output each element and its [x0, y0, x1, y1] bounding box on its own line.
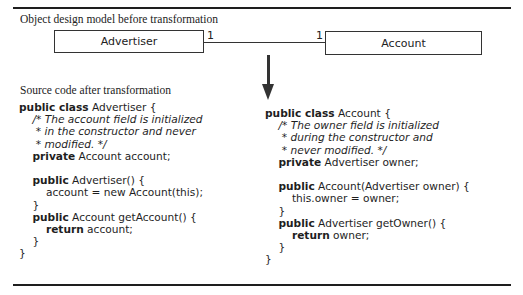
caption-object-design-model: Object design model before transformatio… [20, 13, 218, 26]
code-line: return account; [19, 223, 203, 235]
code-line: /* The account field is initialized [19, 113, 203, 125]
code-line [265, 168, 470, 180]
code-line: /* The owner field is initialized [265, 119, 470, 131]
multiplicity-account: 1 [316, 30, 323, 41]
code-line: private Account account; [19, 150, 203, 162]
caption-source-code: Source code after transformation [20, 84, 171, 97]
code-line: public Advertiser getOwner() { [265, 217, 470, 229]
code-line: this.owner = owner; [265, 192, 470, 204]
code-line: * during the constructor and [265, 131, 470, 143]
code-line [19, 162, 203, 174]
association-line [203, 42, 326, 43]
code-line: public Advertiser() { [19, 174, 203, 186]
code-line: } [265, 205, 470, 217]
code-line: } [19, 199, 203, 211]
multiplicity-advertiser: 1 [207, 30, 214, 41]
code-line: } [19, 235, 203, 247]
uml-class-account-name: Account [381, 37, 425, 50]
down-arrow-icon [262, 84, 274, 100]
code-account-class: public class Account { /* The owner fiel… [265, 107, 470, 265]
code-advertiser-class: public class Advertiser { /* The account… [19, 101, 203, 259]
code-line: public class Account { [265, 107, 470, 119]
code-line: * modified. */ [19, 138, 203, 150]
code-line: public Account getAccount() { [19, 211, 203, 223]
code-line: private Advertiser owner; [265, 156, 470, 168]
code-line: * never modified. */ [265, 144, 470, 156]
code-line: public class Advertiser { [19, 101, 203, 113]
uml-class-advertiser: Advertiser [54, 30, 204, 53]
uml-class-advertiser-name: Advertiser [101, 35, 158, 48]
code-line: * in the constructor and never [19, 125, 203, 137]
uml-class-account: Account [325, 31, 482, 55]
code-line: return owner; [265, 229, 470, 241]
code-line: } [265, 253, 470, 265]
code-line: } [19, 247, 203, 259]
code-line: public Account(Advertiser owner) { [265, 180, 470, 192]
bottom-rule [13, 284, 511, 286]
code-line: account = new Account(this); [19, 186, 203, 198]
top-rule [13, 7, 511, 9]
code-line: } [265, 241, 470, 253]
transformation-arrow-shaft [267, 55, 270, 85]
